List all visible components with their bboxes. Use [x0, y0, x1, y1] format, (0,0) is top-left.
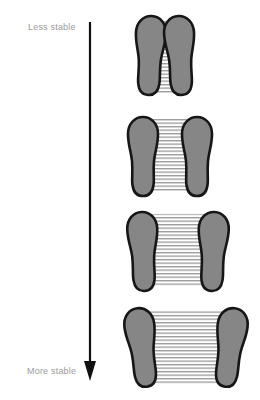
right-footprint [197, 212, 230, 292]
stance-medium [127, 212, 230, 292]
arrow-head-icon [84, 361, 96, 381]
diagram-canvas [0, 0, 260, 400]
left-footprint [128, 117, 158, 196]
stance-narrow [128, 117, 212, 196]
left-footprint [127, 212, 160, 292]
stance-feet-together [133, 15, 196, 95]
stance-wide [122, 306, 249, 388]
stability-arrow [84, 22, 96, 381]
stability-diagram: Less stable More stable [0, 0, 260, 400]
right-footprint [182, 117, 212, 196]
